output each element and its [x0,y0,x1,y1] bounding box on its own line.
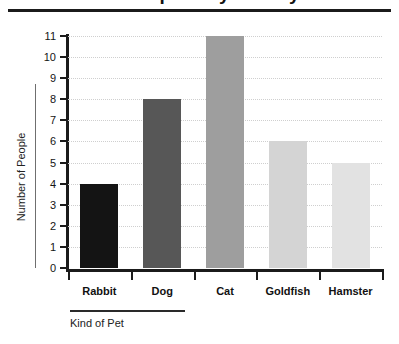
y-axis-label: 7 [50,114,56,126]
y-axis-label: 3 [50,199,56,211]
y-axis-tick [60,140,68,142]
y-axis-tick [60,35,68,37]
y-axis-title: Number of People [15,133,27,222]
y-axis-title-divider [35,84,36,268]
x-axis-tick [256,269,258,280]
y-axis-label: 1 [50,241,56,253]
y-axis-title-wrap: Number of People [12,92,30,262]
x-axis-tick [319,269,321,280]
y-axis-tick [60,98,68,100]
y-axis-tick [60,267,68,269]
y-axis-label: 6 [50,135,56,147]
bar [332,163,370,268]
x-axis-tick [382,269,384,280]
y-axis-label: 10 [44,51,56,63]
x-axis-category-label: Dog [151,285,172,297]
y-axis-label: 4 [50,178,56,190]
chart-title-strip: Pet Popularity Survey [0,0,399,9]
y-axis-label: 8 [50,93,56,105]
x-axis-category-label: Hamster [329,285,373,297]
y-axis-tick [60,183,68,185]
y-axis-tick [60,119,68,121]
plot-area: 01234567891011 [68,36,382,268]
x-axis-tick [68,269,70,280]
bar [143,99,181,268]
x-axis-category-label: Goldfish [265,285,310,297]
title-divider [8,9,391,12]
chart-page: Pet Popularity Survey Number of People 0… [0,0,399,344]
chart-title: Pet Popularity Survey [0,0,399,5]
y-axis-label: 0 [50,262,56,274]
x-axis-tick [131,269,133,280]
x-axis-title-divider [70,310,185,312]
bar [80,184,118,268]
x-axis-category-label: Cat [216,285,234,297]
x-axis-title: Kind of Pet [70,317,124,329]
y-axis-tick [60,162,68,164]
y-axis-tick [60,204,68,206]
y-axis-tick [60,56,68,58]
x-axis-tick [194,269,196,280]
y-axis-label: 5 [50,157,56,169]
x-axis-line [66,269,382,272]
y-axis-label: 2 [50,220,56,232]
x-axis-category-label: Rabbit [82,285,116,297]
y-axis-label: 11 [45,30,56,42]
y-axis-tick [60,246,68,248]
bar [269,141,307,268]
y-axis-tick [60,77,68,79]
y-axis-label: 9 [50,72,56,84]
bar [206,36,244,268]
y-axis-tick [60,225,68,227]
